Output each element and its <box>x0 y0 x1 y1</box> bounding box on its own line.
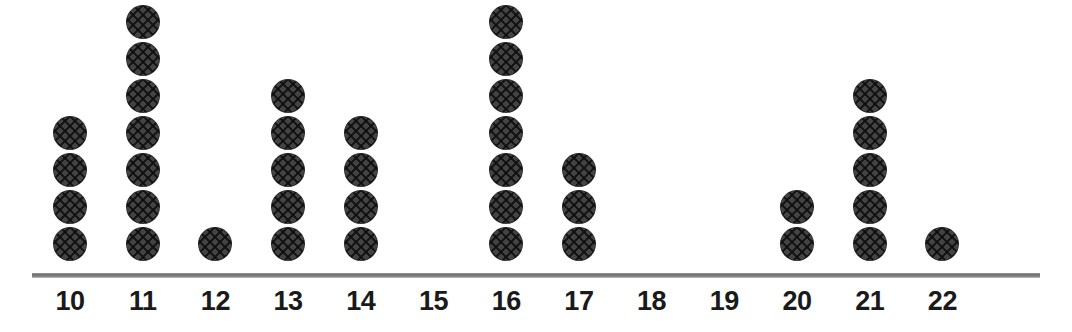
dot-column-13 <box>268 0 308 332</box>
data-dot <box>53 153 87 187</box>
data-dot <box>53 116 87 150</box>
data-dot <box>853 190 887 224</box>
data-dot <box>489 227 523 261</box>
data-dot <box>344 227 378 261</box>
dot-column-10 <box>50 0 90 332</box>
data-dot <box>271 116 305 150</box>
data-dot <box>489 190 523 224</box>
dot-column-21 <box>850 0 890 332</box>
x-axis-tick-label-14: 14 <box>331 286 391 316</box>
data-dot <box>853 79 887 113</box>
data-dot <box>489 79 523 113</box>
data-dot <box>489 42 523 76</box>
dot-column-15 <box>414 0 454 332</box>
data-dot <box>126 5 160 39</box>
data-dot <box>126 116 160 150</box>
dot-column-12 <box>195 0 235 332</box>
data-dot <box>126 227 160 261</box>
data-dot <box>126 190 160 224</box>
data-dot <box>489 153 523 187</box>
x-axis-tick-label-19: 19 <box>694 286 754 316</box>
dot-plot-figure: 10111213141516171819202122 <box>0 0 1072 332</box>
data-dot <box>126 153 160 187</box>
x-axis-tick-label-20: 20 <box>767 286 827 316</box>
data-dot <box>925 227 959 261</box>
x-axis-tick-label-13: 13 <box>258 286 318 316</box>
data-dot <box>344 116 378 150</box>
dot-column-17 <box>559 0 599 332</box>
data-dot <box>271 153 305 187</box>
data-dot <box>853 153 887 187</box>
x-axis-tick-label-11: 11 <box>113 286 173 316</box>
x-axis-tick-label-16: 16 <box>476 286 536 316</box>
dot-column-11 <box>123 0 163 332</box>
data-dot <box>271 190 305 224</box>
data-dot <box>562 190 596 224</box>
data-dot <box>271 79 305 113</box>
dot-column-16 <box>486 0 526 332</box>
dot-column-19 <box>704 0 744 332</box>
data-dot <box>344 190 378 224</box>
plot-area: 10111213141516171819202122 <box>0 0 1072 332</box>
dot-column-18 <box>632 0 672 332</box>
data-dot <box>562 227 596 261</box>
data-dot <box>344 153 378 187</box>
x-axis-tick-label-21: 21 <box>840 286 900 316</box>
x-axis-tick-label-22: 22 <box>912 286 972 316</box>
data-dot <box>780 190 814 224</box>
data-dot <box>562 153 596 187</box>
dot-column-22 <box>922 0 962 332</box>
data-dot <box>780 227 814 261</box>
x-axis-tick-label-12: 12 <box>185 286 245 316</box>
data-dot <box>53 190 87 224</box>
x-axis-tick-label-10: 10 <box>40 286 100 316</box>
data-dot <box>126 42 160 76</box>
data-dot <box>489 116 523 150</box>
data-dot <box>198 227 232 261</box>
dot-column-14 <box>341 0 381 332</box>
dot-column-20 <box>777 0 817 332</box>
data-dot <box>126 79 160 113</box>
data-dot <box>489 5 523 39</box>
data-dot <box>271 227 305 261</box>
x-axis-tick-label-18: 18 <box>622 286 682 316</box>
data-dot <box>53 227 87 261</box>
data-dot <box>853 116 887 150</box>
x-axis-tick-label-17: 17 <box>549 286 609 316</box>
data-dot <box>853 227 887 261</box>
x-axis-tick-label-15: 15 <box>404 286 464 316</box>
